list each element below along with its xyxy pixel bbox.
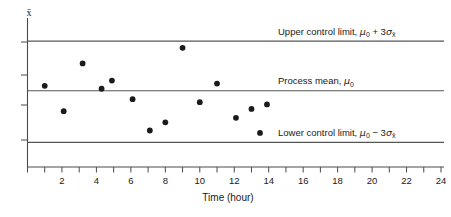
data-point bbox=[162, 119, 168, 125]
data-point bbox=[180, 45, 186, 51]
data-point bbox=[233, 115, 239, 121]
chart-canvas: x̄ 24681012141618202224 Upper control li… bbox=[0, 0, 451, 217]
data-point bbox=[80, 61, 86, 67]
x-tick-label: 22 bbox=[401, 175, 412, 186]
data-point bbox=[249, 106, 255, 112]
x-tick-label: 6 bbox=[128, 175, 133, 186]
y-axis-label: x̄ bbox=[27, 7, 32, 18]
x-tick-label: 2 bbox=[59, 175, 64, 186]
legend-marker-icon bbox=[257, 130, 263, 136]
data-point bbox=[99, 86, 105, 92]
x-tick-label: 12 bbox=[229, 175, 240, 186]
x-axis-ticks bbox=[28, 167, 442, 173]
data-point bbox=[61, 108, 67, 114]
data-point bbox=[130, 96, 136, 102]
x-tick-label: 16 bbox=[298, 175, 309, 186]
x-tick-label: 24 bbox=[436, 175, 447, 186]
data-point bbox=[214, 81, 220, 87]
upper-control-limit-label: Upper control limit, μ0 + 3σx̄ bbox=[278, 26, 396, 38]
x-tick-label: 18 bbox=[332, 175, 343, 186]
x-tick-label: 10 bbox=[195, 175, 206, 186]
data-point bbox=[109, 78, 115, 84]
lower-control-limit-label: Lower control limit, μ0 − 3σx̄ bbox=[278, 127, 396, 139]
x-tick-label: 20 bbox=[367, 175, 378, 186]
data-point bbox=[42, 83, 48, 89]
x-tick-label: 8 bbox=[163, 175, 168, 186]
x-axis-title: Time (hour) bbox=[202, 192, 253, 203]
reference-line-labels: Upper control limit, μ0 + 3σx̄Process me… bbox=[278, 26, 396, 140]
x-axis-tick-labels: 24681012141618202224 bbox=[59, 175, 446, 186]
y-axis-ticks bbox=[21, 42, 28, 140]
process-mean-label: Process mean, μ0 bbox=[278, 75, 354, 87]
data-point bbox=[264, 102, 270, 108]
x-tick-label: 4 bbox=[94, 175, 99, 186]
control-chart: x̄ 24681012141618202224 Upper control li… bbox=[0, 0, 451, 217]
data-points bbox=[42, 45, 270, 134]
data-point bbox=[197, 99, 203, 105]
x-tick-label: 14 bbox=[263, 175, 274, 186]
data-point bbox=[147, 128, 153, 134]
